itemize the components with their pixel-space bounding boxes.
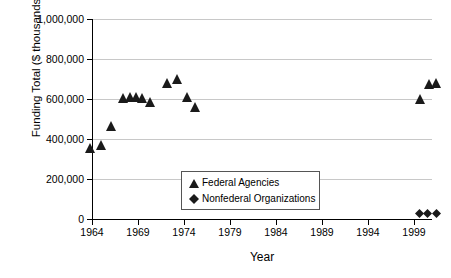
legend-label-nonfederal-organizations: Nonfederal Organizations bbox=[202, 194, 315, 204]
data-point-federal-agencies bbox=[190, 102, 200, 112]
y-tick-label: 400,000 bbox=[0, 134, 84, 145]
data-point-federal-agencies bbox=[162, 78, 172, 88]
triangle-marker-icon bbox=[188, 178, 199, 189]
data-point-federal-agencies bbox=[118, 93, 128, 103]
x-tick bbox=[276, 220, 277, 225]
data-point-federal-agencies bbox=[431, 78, 441, 88]
data-point-federal-agencies bbox=[424, 79, 434, 89]
legend-label-federal-agencies: Federal Agencies bbox=[202, 178, 279, 188]
data-point-federal-agencies bbox=[85, 143, 95, 153]
data-point-federal-agencies bbox=[182, 92, 192, 102]
x-axis-title: Year bbox=[92, 250, 432, 264]
y-tick-label: 800,000 bbox=[0, 54, 84, 65]
data-point-nonfederal-organizations bbox=[432, 209, 441, 218]
legend-entry-federal-agencies: Federal Agencies bbox=[188, 175, 314, 191]
x-axis-line bbox=[92, 219, 432, 220]
x-tick bbox=[138, 220, 139, 225]
data-point-federal-agencies bbox=[125, 92, 135, 102]
x-tick-label: 1999 bbox=[384, 227, 444, 238]
y-tick-label: 0 bbox=[0, 214, 84, 225]
y-tick-label: 1,000,000 bbox=[0, 14, 84, 25]
x-tick bbox=[368, 220, 369, 225]
funding-total-scatter-chart: 0200,000400,000600,000800,0001,000,000 1… bbox=[0, 0, 451, 278]
data-point-federal-agencies bbox=[137, 93, 147, 103]
data-point-federal-agencies bbox=[106, 121, 116, 131]
y-tick-label: 200,000 bbox=[0, 174, 84, 185]
gridline bbox=[92, 59, 432, 60]
data-point-federal-agencies bbox=[131, 92, 141, 102]
data-point-nonfederal-organizations bbox=[423, 209, 432, 218]
data-point-nonfederal-organizations bbox=[415, 209, 424, 218]
x-tick bbox=[230, 220, 231, 225]
x-tick bbox=[92, 220, 93, 225]
x-tick bbox=[322, 220, 323, 225]
diamond-marker-icon bbox=[188, 194, 199, 205]
y-tick-label: 600,000 bbox=[0, 94, 84, 105]
gridline bbox=[92, 99, 432, 100]
gridline bbox=[92, 19, 432, 20]
data-point-federal-agencies bbox=[172, 74, 182, 84]
x-tick bbox=[414, 220, 415, 225]
x-tick bbox=[184, 220, 185, 225]
y-axis-line bbox=[92, 19, 93, 220]
gridline bbox=[92, 139, 432, 140]
legend-entry-nonfederal-organizations: Nonfederal Organizations bbox=[188, 191, 314, 207]
chart-legend: Federal Agencies Nonfederal Organization… bbox=[181, 171, 320, 210]
y-axis-title: Funding Total ($ thousands) bbox=[30, 0, 42, 166]
data-point-federal-agencies bbox=[96, 140, 106, 150]
